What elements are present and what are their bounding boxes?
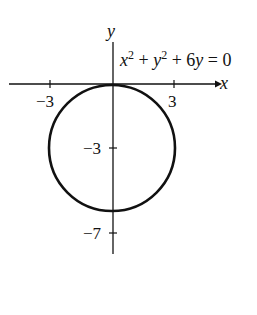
y-tick-label-neg7: −7 bbox=[83, 224, 102, 243]
x-tick-label-3: 3 bbox=[168, 92, 177, 111]
equation-label: x2 + y2 + 6y = 0 bbox=[119, 48, 231, 70]
circle-graph: −3 3 −3 −7 y x x2 + y2 + 6y = 0 bbox=[0, 0, 257, 315]
y-tick-label-neg3: −3 bbox=[83, 139, 101, 158]
y-axis-label: y bbox=[105, 21, 115, 41]
x-axis-label: x bbox=[219, 73, 228, 93]
x-tick-label-neg3: −3 bbox=[36, 92, 54, 111]
